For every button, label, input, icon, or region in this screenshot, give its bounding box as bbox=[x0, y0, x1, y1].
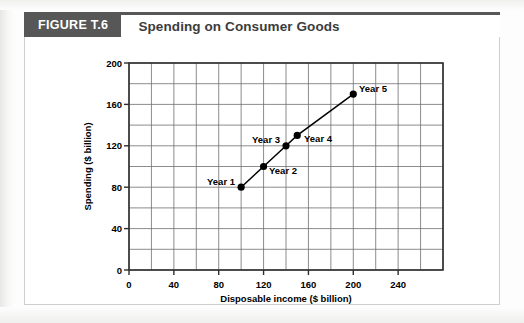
data-point-label: Year 1 bbox=[207, 176, 236, 187]
figure-body: 200 160 120 80 40 0 Spending ($ billion) bbox=[24, 37, 500, 305]
figure-header: FIGURE T.6 Spending on Consumer Goods bbox=[24, 12, 500, 37]
x-tick-label: 40 bbox=[169, 279, 180, 290]
data-point-label: Year 2 bbox=[269, 165, 297, 176]
page-edge-shadow-bottom bbox=[0, 307, 524, 323]
data-point-marker bbox=[238, 184, 245, 191]
y-axis-tick-labels: 200 160 120 80 40 0 bbox=[106, 58, 122, 276]
x-axis-title: Disposable income ($ billion) bbox=[220, 293, 351, 304]
data-point-label: Year 5 bbox=[359, 83, 388, 94]
data-point-marker bbox=[294, 132, 301, 139]
x-axis-tick-labels: 0 40 80 120 160 200 240 bbox=[126, 279, 406, 290]
x-tick-label: 0 bbox=[126, 279, 131, 290]
page-edge-shadow-top bbox=[0, 0, 524, 10]
x-tick-label: 240 bbox=[390, 279, 406, 290]
figure-number-badge: FIGURE T.6 bbox=[24, 12, 121, 37]
x-tick-label: 120 bbox=[256, 279, 272, 290]
x-tick-label: 200 bbox=[345, 279, 361, 290]
figure-container: FIGURE T.6 Spending on Consumer Goods bbox=[0, 0, 524, 323]
page-edge-shadow-left bbox=[0, 0, 14, 323]
y-axis-title: Spending ($ billion) bbox=[82, 122, 93, 210]
x-tick-label: 80 bbox=[213, 279, 224, 290]
y-tick-label: 80 bbox=[111, 182, 122, 193]
data-point-marker bbox=[350, 90, 357, 97]
data-point-label: Year 4 bbox=[304, 133, 333, 144]
figure-title: Spending on Consumer Goods bbox=[121, 12, 500, 37]
chart-plot: 200 160 120 80 40 0 Spending ($ billion) bbox=[25, 37, 501, 305]
data-point-marker bbox=[260, 163, 267, 170]
x-tick-label: 160 bbox=[301, 279, 317, 290]
y-tick-label: 40 bbox=[111, 223, 122, 234]
y-tick-label: 120 bbox=[106, 140, 122, 151]
y-tick-label: 0 bbox=[117, 265, 122, 276]
data-point-label: Year 3 bbox=[252, 134, 280, 145]
y-tick-label: 200 bbox=[106, 58, 122, 69]
data-point-marker bbox=[282, 142, 289, 149]
y-tick-label: 160 bbox=[106, 99, 122, 110]
